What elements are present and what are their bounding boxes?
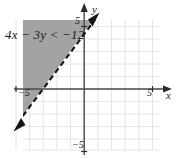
y-axis-label: y bbox=[92, 4, 97, 15]
x-tick-label-positive-5: 5 bbox=[147, 88, 152, 98]
coordinate-plane bbox=[0, 0, 177, 159]
x-tick-label-negative-5: −5 bbox=[18, 88, 30, 98]
inequality-equation-label: 4x − 3y < −12 bbox=[5, 28, 84, 41]
y-tick-label-negative-5: −5 bbox=[72, 140, 84, 150]
y-tick-label-positive-5: 5 bbox=[75, 16, 80, 26]
inequality-graph-figure: 4x − 3y < −12 y x −5 5 5 −5 bbox=[0, 0, 177, 159]
y-axis-arrow-icon bbox=[81, 3, 88, 12]
x-axis-label: x bbox=[166, 90, 171, 101]
